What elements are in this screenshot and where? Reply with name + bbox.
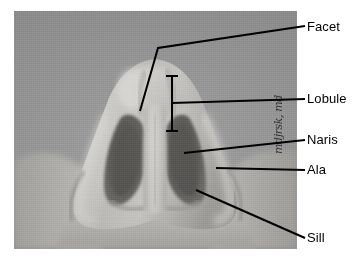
photo-tone-overlay: [14, 11, 297, 249]
anatomical-figure: mdjrsk, md Facet Lobule Naris Ala Sill: [0, 0, 359, 266]
signature-watermark: mdjrsk, md: [270, 73, 286, 175]
signature-text: mdjrsk, md: [272, 95, 285, 154]
label-sill: Sill: [307, 231, 325, 244]
label-ala: Ala: [307, 163, 326, 176]
nose-base-view-photograph: mdjrsk, md: [14, 11, 297, 249]
label-facet: Facet: [307, 20, 340, 33]
label-naris: Naris: [307, 133, 338, 146]
nose-anatomy-illustration: [14, 11, 297, 249]
label-lobule: Lobule: [307, 92, 347, 105]
